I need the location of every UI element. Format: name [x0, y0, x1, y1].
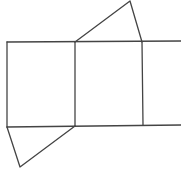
triangle-top — [75, 1, 142, 42]
bottom-edge — [7, 125, 181, 127]
net-diagram — [0, 0, 181, 175]
triangle-bottom — [7, 126, 75, 167]
middle-right-edge — [142, 42, 143, 125]
top-edge — [7, 41, 181, 42]
